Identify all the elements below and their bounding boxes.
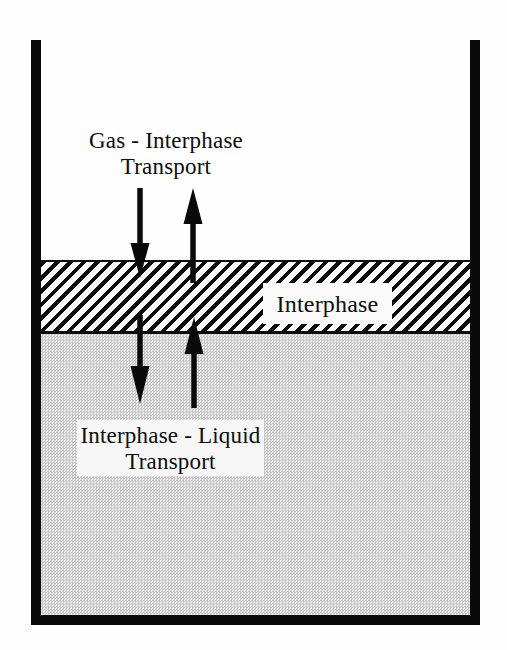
gas-transport-label: Gas - Interphase Transport	[60, 128, 272, 180]
interphase-band	[41, 260, 470, 334]
liquid-transport-label-line1: Interphase - Liquid	[77, 423, 264, 449]
interphase-label: Interphase	[263, 283, 392, 324]
gas-transport-label-line1: Gas - Interphase	[60, 128, 272, 154]
vessel-right-wall	[470, 40, 480, 625]
vessel-left-wall	[31, 40, 41, 625]
gas-transport-label-line2: Transport	[60, 154, 272, 180]
liquid-transport-label: Interphase - Liquid Transport	[77, 420, 264, 476]
vessel-bottom-wall	[31, 615, 480, 625]
interphase-label-text: Interphase	[277, 291, 379, 317]
diagram-canvas: Gas - Interphase Transport Interphase In…	[0, 0, 507, 650]
liquid-transport-label-line2: Transport	[77, 449, 264, 475]
